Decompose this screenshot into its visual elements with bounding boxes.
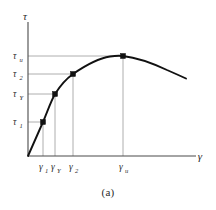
stress-strain-curve xyxy=(28,56,186,156)
y-tick-tau-Y-sub: Y xyxy=(20,94,25,101)
y-tick-tau-2-sub: 2 xyxy=(20,74,24,81)
figure-caption: (a) xyxy=(0,186,216,198)
y-tick-tau-u-sub: u xyxy=(20,56,24,63)
x-tick-gamma-u: γ xyxy=(119,162,123,172)
y-axis-label: τ xyxy=(23,10,28,22)
figure-container: τ γ τ u τ 2 τ Y τ 1 γ 1 γ Y γ 2 γ u (a) xyxy=(0,0,216,210)
y-tick-labels: τ u τ 2 τ Y τ 1 xyxy=(13,51,25,129)
data-point-u xyxy=(121,54,126,59)
x-tick-gamma-Y: γ xyxy=(51,162,55,172)
horizontal-guide-lines xyxy=(28,56,123,122)
y-tick-tau-Y: τ xyxy=(13,89,17,99)
stress-strain-plot: τ γ τ u τ 2 τ Y τ 1 γ 1 γ Y γ 2 γ u xyxy=(0,0,216,210)
x-tick-labels: γ 1 γ Y γ 2 γ u xyxy=(39,162,129,174)
data-point-Y xyxy=(53,92,58,97)
x-tick-gamma-2-sub: 2 xyxy=(75,167,79,174)
x-tick-gamma-Y-sub: Y xyxy=(57,167,62,174)
y-tick-tau-1-sub: 1 xyxy=(20,122,23,129)
data-point-1 xyxy=(41,120,46,125)
y-tick-tau-1: τ xyxy=(13,117,17,127)
x-tick-gamma-2: γ xyxy=(69,162,73,172)
y-tick-tau-2: τ xyxy=(13,69,17,79)
data-point-markers xyxy=(41,54,126,125)
y-tick-tau-u: τ xyxy=(13,51,17,61)
x-axis-label: γ xyxy=(198,150,203,162)
x-tick-gamma-1: γ xyxy=(39,162,43,172)
data-point-2 xyxy=(71,72,76,77)
x-tick-gamma-u-sub: u xyxy=(125,167,129,174)
vertical-guide-lines xyxy=(43,56,123,156)
x-tick-gamma-1-sub: 1 xyxy=(45,167,48,174)
